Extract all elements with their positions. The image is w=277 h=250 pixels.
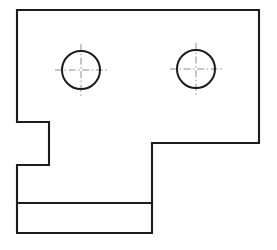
right-hole-group — [170, 43, 222, 95]
engineering-drawing-canvas — [0, 0, 277, 250]
plate-outline — [17, 10, 259, 233]
left-hole-circle — [62, 51, 100, 89]
drawing-svg — [0, 0, 277, 250]
left-hole-group — [55, 44, 107, 96]
right-hole-circle — [177, 50, 215, 88]
